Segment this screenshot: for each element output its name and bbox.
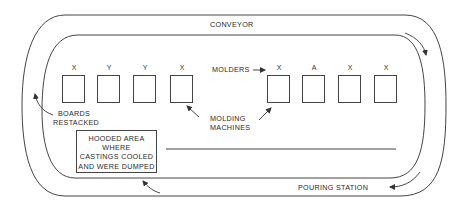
molding-machine bbox=[62, 75, 85, 103]
conveyor-layout-diagram bbox=[0, 0, 465, 207]
molding-machines-label: MOLDING MACHINES bbox=[210, 114, 250, 132]
molder-mark: X bbox=[338, 64, 362, 71]
molding-machine bbox=[133, 75, 156, 103]
molder-mark: X bbox=[62, 64, 86, 71]
boards-restacked-label: BOARDS RESTACKED bbox=[53, 109, 95, 127]
molding-machines-arrow-right bbox=[259, 108, 271, 120]
molding-machines-arrow-left bbox=[187, 106, 199, 117]
molder-mark: Y bbox=[133, 64, 157, 71]
boards-restacked-arrow bbox=[35, 94, 53, 115]
molder-mark: X bbox=[267, 64, 291, 71]
molding-machine bbox=[338, 75, 361, 103]
molder-mark: Y bbox=[97, 64, 121, 71]
molding-machine bbox=[267, 75, 290, 103]
molding-machine bbox=[302, 75, 325, 103]
molders-label: MOLDERS bbox=[212, 65, 250, 74]
molder-mark: A bbox=[302, 64, 326, 71]
molding-machine bbox=[170, 75, 193, 103]
conveyor-label: CONVEYOR bbox=[210, 20, 254, 29]
hooded-area-box: HOODED AREA WHERE CASTINGS COOLED AND WE… bbox=[76, 130, 157, 173]
molding-machine bbox=[374, 75, 397, 103]
molder-mark: X bbox=[374, 64, 398, 71]
molder-mark: X bbox=[170, 64, 194, 71]
flow-arrow-top-right bbox=[405, 33, 426, 55]
molding-machine bbox=[97, 75, 120, 103]
hooded-area-arrow bbox=[143, 181, 160, 193]
pouring-station-label: POURING STATION bbox=[298, 183, 368, 192]
